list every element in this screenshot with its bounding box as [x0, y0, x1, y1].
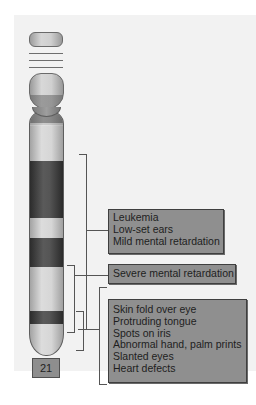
trait-label: Protruding tongue [113, 316, 243, 328]
trait-label: Heart defects [113, 363, 243, 375]
dark-band-q21 [30, 161, 63, 218]
dark-band-q22-1 [30, 238, 63, 267]
satellite-stalk-line [29, 53, 63, 54]
trait-label: Severe mental retardation [113, 268, 232, 280]
satellite-stalk-line [29, 60, 63, 61]
trait-label: Low-set ears [113, 224, 220, 236]
annotation-box-region-1: Leukemia Low-set ears Mild mental retard… [108, 209, 224, 254]
chromosome-number-label: 21 [32, 358, 60, 378]
chromosome-short-arm [29, 73, 64, 109]
band-highlight [30, 123, 63, 126]
chromosome-satellite [29, 32, 63, 47]
trait-label: Mild mental retardation [113, 236, 220, 248]
chromosome-long-arm [29, 110, 64, 356]
dark-band-q22-3 [30, 311, 63, 324]
annotation-box-region-3: Skin fold over eye Protruding tongue Spo… [108, 299, 247, 383]
annotation-box-region-2: Severe mental retardation [108, 264, 236, 284]
satellite-stalk-line [29, 67, 63, 68]
